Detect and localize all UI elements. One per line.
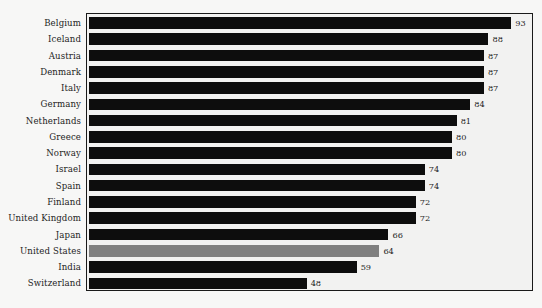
category-label: Denmark xyxy=(40,64,81,80)
chart-screenshot: Belgium93Iceland88Austria87Denmark87Ital… xyxy=(0,0,542,308)
bar-row: Iceland88 xyxy=(0,31,542,47)
category-label: Netherlands xyxy=(26,113,81,129)
bar-row: Switzerland48 xyxy=(0,275,542,291)
bar-row: Austria87 xyxy=(0,48,542,64)
bar xyxy=(89,261,357,273)
bar xyxy=(89,229,389,241)
bar-value-label: 81 xyxy=(461,113,471,129)
bar-row: Israel74 xyxy=(0,161,542,177)
bar-value-label: 64 xyxy=(383,243,393,259)
bar-row: United Kingdom72 xyxy=(0,210,542,226)
bar-value-label: 59 xyxy=(361,259,371,275)
bar xyxy=(89,82,484,94)
bar-value-label: 80 xyxy=(456,145,466,161)
category-label: United Kingdom xyxy=(8,210,81,226)
category-label: Greece xyxy=(49,129,81,145)
bar xyxy=(89,99,471,111)
bar-row: Finland72 xyxy=(0,194,542,210)
bar-row: Greece80 xyxy=(0,129,542,145)
bar xyxy=(89,131,453,143)
bar xyxy=(89,180,425,192)
category-label: United States xyxy=(20,243,81,259)
bar-row: Norway80 xyxy=(0,145,542,161)
bar-value-label: 66 xyxy=(392,227,402,243)
category-label: Germany xyxy=(41,96,81,112)
bar-value-label: 72 xyxy=(420,194,430,210)
bar xyxy=(89,147,453,159)
bar-row: Italy87 xyxy=(0,80,542,96)
bar xyxy=(89,115,457,127)
category-label: India xyxy=(58,259,81,275)
bar-row: Denmark87 xyxy=(0,64,542,80)
bar xyxy=(89,17,512,29)
bar-value-label: 87 xyxy=(488,48,498,64)
bar-row: Belgium93 xyxy=(0,15,542,31)
bar-row: India59 xyxy=(0,259,542,275)
category-label: Austria xyxy=(49,48,81,64)
category-label: Israel xyxy=(56,161,81,177)
category-label: Spain xyxy=(56,178,81,194)
bar-value-label: 93 xyxy=(515,15,525,31)
bar-value-label: 84 xyxy=(474,96,484,112)
bar-value-label: 48 xyxy=(311,275,321,291)
bar xyxy=(89,278,307,290)
bar xyxy=(89,33,489,45)
bar-highlighted xyxy=(89,245,380,257)
category-label: Italy xyxy=(61,80,81,96)
category-label: Japan xyxy=(56,227,81,243)
bar xyxy=(89,50,484,62)
bar xyxy=(89,196,416,208)
bar-value-label: 87 xyxy=(488,80,498,96)
category-label: Belgium xyxy=(44,15,81,31)
category-label: Switzerland xyxy=(28,275,81,291)
bar-row: United States64 xyxy=(0,243,542,259)
category-label: Norway xyxy=(46,145,81,161)
bar-value-label: 80 xyxy=(456,129,466,145)
bar-row: Japan66 xyxy=(0,227,542,243)
bar xyxy=(89,212,416,224)
bar xyxy=(89,66,484,78)
bar-row: Spain74 xyxy=(0,178,542,194)
bar-value-label: 87 xyxy=(488,64,498,80)
bar-value-label: 72 xyxy=(420,210,430,226)
category-label: Finland xyxy=(47,194,81,210)
bar-value-label: 74 xyxy=(429,178,439,194)
bar-series-layer: Belgium93Iceland88Austria87Denmark87Ital… xyxy=(0,0,542,308)
bar xyxy=(89,164,425,176)
bar-value-label: 88 xyxy=(492,31,502,47)
category-label: Iceland xyxy=(48,31,81,47)
bar-row: Netherlands81 xyxy=(0,113,542,129)
bar-value-label: 74 xyxy=(429,161,439,177)
bar-row: Germany84 xyxy=(0,96,542,112)
